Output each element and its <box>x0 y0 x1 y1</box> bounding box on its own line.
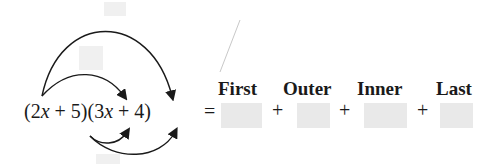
label-last: Last <box>436 78 472 100</box>
plus-3: + <box>417 99 428 122</box>
left-factor: (2x + 5) <box>24 100 88 122</box>
binomial-product: (2x + 5)(3x + 4) <box>24 100 151 123</box>
right-factor: (3x + 4) <box>88 100 152 122</box>
outer-arrow <box>42 32 172 97</box>
label-outer: Outer <box>283 78 332 100</box>
plus-1: + <box>272 99 283 122</box>
blank-inner[interactable] <box>364 103 407 128</box>
label-first: First <box>218 78 257 100</box>
first-arrow <box>42 75 124 96</box>
blank-outer[interactable] <box>297 103 330 128</box>
label-inner: Inner <box>357 78 402 100</box>
blank-last[interactable] <box>440 103 473 128</box>
plus-2: + <box>339 99 350 122</box>
equals-sign: = <box>204 100 215 123</box>
blank-first[interactable] <box>221 103 262 128</box>
